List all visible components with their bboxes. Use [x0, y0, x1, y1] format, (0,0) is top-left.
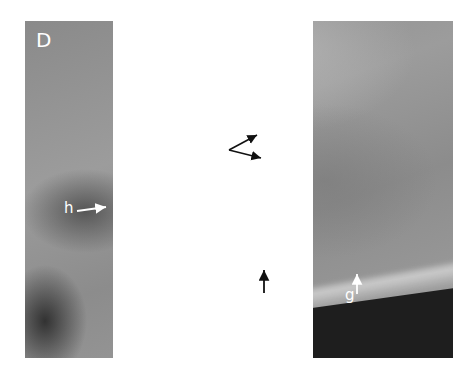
arrow-i-lower-icon [229, 150, 261, 158]
arrow-h-icon [77, 207, 106, 211]
arrow-i-upper-icon [229, 135, 257, 150]
annotation-arrows [0, 0, 476, 385]
